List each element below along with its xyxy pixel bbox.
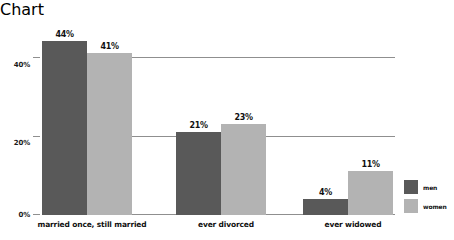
- y-axis-tick-label-40: 40%: [0, 61, 30, 69]
- tick-stub-20: [33, 136, 40, 137]
- legend-label-women: women: [423, 203, 447, 210]
- category-label-ever-widowed: ever widowed: [283, 220, 423, 229]
- bar-men-married-once[interactable]: [42, 41, 87, 215]
- bar-value-men-married-once: 44%: [42, 30, 87, 39]
- bar-value-women-ever-divorced: 23%: [221, 113, 266, 122]
- y-axis-tick-label-20: 20%: [0, 139, 30, 147]
- category-label-ever-divorced: ever divorced: [156, 220, 296, 229]
- bar-men-ever-divorced[interactable]: [176, 132, 221, 215]
- bar-women-ever-divorced[interactable]: [221, 124, 266, 215]
- bar-women-married-once[interactable]: [87, 53, 132, 215]
- legend-label-men: men: [423, 184, 437, 191]
- bar-women-ever-widowed[interactable]: [348, 171, 393, 215]
- category-label-married-once: married once, still married: [12, 220, 172, 229]
- tick-stub-0: [33, 214, 40, 215]
- bar-value-women-ever-widowed: 11%: [348, 160, 393, 169]
- bar-value-men-ever-widowed: 4%: [303, 188, 348, 197]
- legend-swatch-men-icon: [404, 180, 418, 194]
- bar-value-men-ever-divorced: 21%: [176, 121, 221, 130]
- bar-men-ever-widowed[interactable]: [303, 199, 348, 215]
- bar-chart: 40% 20% 0% 44% 41% 21% 23% 4% 11% marr: [0, 19, 454, 240]
- legend-swatch-women-icon: [404, 199, 418, 213]
- y-axis-tick-label-0: 0%: [0, 211, 30, 219]
- tick-stub-40: [33, 57, 40, 58]
- plot-area: 44% 41% 21% 23% 4% 11%: [42, 33, 395, 215]
- bar-value-women-married-once: 41%: [87, 42, 132, 51]
